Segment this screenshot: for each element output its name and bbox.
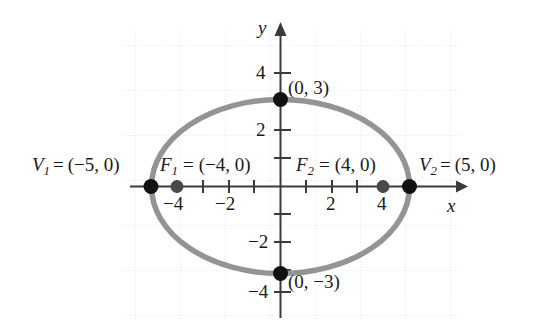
- label-focus-right: F2=(4, 0): [296, 155, 376, 178]
- y-tick-label-2: 2: [256, 120, 266, 139]
- label-focus-left: F1=(−4, 0): [160, 155, 251, 178]
- label-vertex-right: V2=(5, 0): [419, 155, 496, 178]
- x-tick-label-2: 2: [326, 194, 336, 213]
- focus-left-equals: =: [178, 154, 199, 175]
- focus-right-name: F: [296, 154, 308, 175]
- y-tick-label-4: 4: [256, 63, 266, 82]
- label-covertex-top: (0, 3): [288, 78, 329, 97]
- point-focus-left: [171, 180, 184, 193]
- vertex-right-coords: (5, 0): [455, 154, 496, 175]
- x-axis-label: x: [447, 196, 455, 215]
- y-tick-label-minus-4: −4: [248, 282, 268, 301]
- vertex-left-name: V: [32, 154, 44, 175]
- point-focus-right: [377, 180, 390, 193]
- ellipse-figure: y x 4 2 −2 −4 −4 −2 2 4 V1=(−5, 0) F1=(−…: [0, 0, 533, 329]
- vertex-left-coords: (−5, 0): [68, 154, 120, 175]
- x-axis-arrowhead: [456, 181, 468, 193]
- focus-right-coords: (4, 0): [335, 154, 376, 175]
- y-axis-label: y: [258, 18, 266, 37]
- y-tick-label-minus-2: −2: [248, 232, 268, 251]
- point-vertex-right: [402, 179, 417, 194]
- x-tick-label-4: 4: [377, 194, 387, 213]
- label-vertex-left: V1=(−5, 0): [32, 155, 120, 178]
- point-vertex-left: [144, 179, 159, 194]
- vertex-left-equals: =: [50, 154, 68, 175]
- vertex-right-equals: =: [437, 154, 455, 175]
- y-axis-arrowhead: [275, 22, 287, 36]
- focus-right-equals: =: [314, 154, 335, 175]
- point-covertex-top: [273, 92, 288, 107]
- focus-left-name: F: [160, 154, 172, 175]
- vertex-right-name: V: [419, 154, 431, 175]
- x-tick-label-minus-4: −4: [163, 194, 183, 213]
- label-covertex-bottom: (0, −3): [288, 272, 340, 291]
- x-tick-label-minus-2: −2: [215, 194, 235, 213]
- focus-left-coords: (−4, 0): [199, 154, 251, 175]
- point-covertex-bottom: [273, 266, 288, 281]
